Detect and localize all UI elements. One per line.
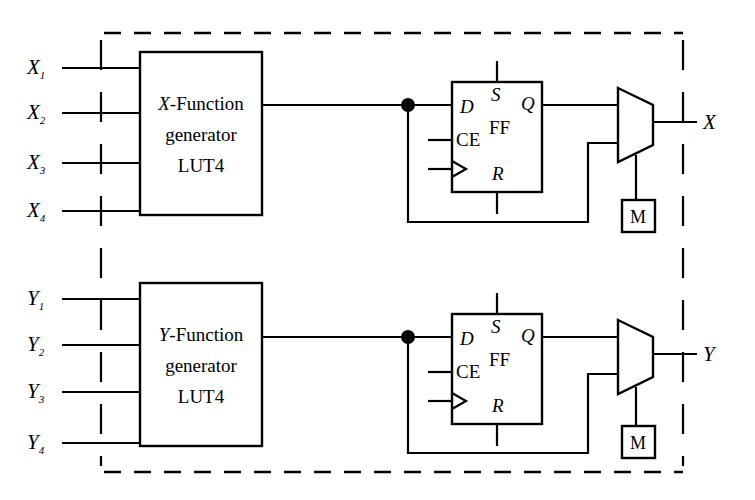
x-ff-label-ce: CE (456, 129, 480, 150)
output-label-y: Y (703, 342, 717, 366)
x-output-mux[interactable] (618, 88, 653, 162)
x-lut-line1-rest: -Function (170, 93, 244, 114)
input-label-x3: X3 (26, 150, 46, 176)
y-memory-cell-label: M (630, 433, 646, 453)
y-ff-label-q: Q (521, 325, 535, 346)
input-label-x3-sub: 3 (39, 164, 46, 176)
input-label-y3: Y3 (27, 379, 45, 405)
x-slice: X1 X2 X3 X4 X-Function generator LUT4 D … (26, 52, 717, 232)
x-memory-cell-label: M (630, 207, 646, 227)
x-input-wires (62, 68, 140, 211)
input-label-x2-sub: 2 (40, 114, 46, 126)
input-label-y2-sub: 2 (39, 346, 45, 358)
x-ff-label-name: FF (489, 117, 510, 138)
y-ff-clock-triangle-icon (452, 393, 466, 409)
input-label-y3-sub: 3 (38, 393, 45, 405)
input-label-x4-sub: 4 (40, 212, 46, 224)
input-label-y4-sub: 4 (39, 444, 45, 456)
y-ff-label-s: S (491, 316, 501, 337)
output-label-x: X (702, 110, 717, 134)
x-lut-line2: generator (165, 124, 237, 145)
input-label-y2: Y2 (27, 332, 45, 358)
schematic-canvas: X1 X2 X3 X4 X-Function generator LUT4 D … (0, 0, 755, 500)
input-label-x4: X4 (26, 198, 46, 224)
x-lut-line1: X-Function (157, 93, 244, 114)
input-label-y1-sub: 1 (39, 300, 45, 312)
input-label-x2: X2 (26, 100, 46, 126)
x-ff-label-d: D (459, 96, 474, 117)
input-label-y4: Y4 (27, 430, 45, 456)
wire-y-lut-feedback-to-mux (408, 337, 618, 453)
x-ff-label-q: Q (521, 93, 535, 114)
x-ff-clock-triangle-icon (452, 161, 466, 177)
y-output-mux[interactable] (618, 320, 653, 394)
y-ff-label-r: R (491, 395, 504, 416)
x-lut-line3: LUT4 (178, 155, 225, 176)
y-lut-line1-rest: -Function (169, 324, 243, 345)
y-lut-line1: Y-Function (159, 324, 244, 345)
y-lut-line2: generator (165, 355, 237, 376)
clb-diagram: X1 X2 X3 X4 X-Function generator LUT4 D … (0, 0, 755, 500)
y-ff-label-d: D (459, 328, 474, 349)
wire-x-lut-feedback-to-mux (408, 105, 618, 222)
input-label-y1: Y1 (27, 286, 44, 312)
input-label-x1-sub: 1 (40, 69, 46, 81)
x-ff-label-s: S (491, 84, 501, 105)
input-label-x1: X1 (26, 55, 45, 81)
y-ff-label-name: FF (489, 349, 510, 370)
y-lut-line3: LUT4 (178, 386, 225, 407)
y-ff-label-ce: CE (456, 361, 480, 382)
x-ff-label-r: R (491, 163, 504, 184)
y-slice: Y1 Y2 Y3 Y4 Y-Function generator LUT4 D … (27, 283, 717, 458)
